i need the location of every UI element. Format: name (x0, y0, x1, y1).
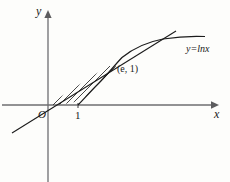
function-label: y=lnx (186, 44, 209, 54)
origin-label: O (38, 109, 46, 120)
graph-canvas (0, 0, 230, 182)
tangent-line (12, 31, 176, 133)
y-axis-label: y (36, 5, 41, 17)
tangent-point-label: (e, 1) (117, 64, 138, 74)
x-tick-label-1: 1 (75, 110, 81, 121)
x-axis-label: x (214, 108, 219, 120)
y-axis-arrow-icon (44, 10, 51, 18)
math-figure-lnx: y x O 1 (e, 1) y=lnx (0, 0, 230, 182)
